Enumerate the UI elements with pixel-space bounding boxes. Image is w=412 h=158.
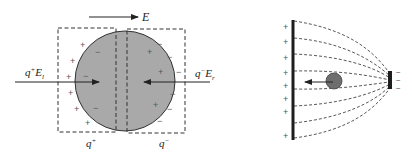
svg-text:+: + [85,118,90,128]
svg-text:+: + [74,104,79,114]
svg-text:q−Er: q−Er [195,67,215,82]
svg-text:+: + [153,100,158,110]
svg-text:+: + [68,88,73,98]
svg-text:−: − [167,104,172,114]
diagram-canvas: E + + + + + + − − − − − − − − − + + [0,0,412,158]
svg-text:+: + [283,81,288,91]
field-arrow: E [89,10,150,24]
svg-text:−: − [157,116,162,126]
svg-text:+: + [80,40,85,50]
svg-text:+: + [283,22,288,32]
dielectric-sphere-figure: E + + + + + + − − − − − − − − − + + [15,10,215,149]
svg-text:+: + [283,37,288,47]
right-electrode-charges: − − − [396,68,401,93]
svg-text:+: + [283,107,288,117]
svg-text:−: − [176,67,181,77]
svg-text:−: − [396,84,401,93]
left-half-label: q+ [86,137,97,149]
svg-text:−: − [167,52,172,62]
svg-text:+: + [283,53,288,63]
svg-text:+: + [283,68,288,78]
svg-text:+: + [70,56,75,66]
dielectrophoresis-figure: + + + + + + + + − − − [283,20,401,141]
right-half-label: q− [159,137,170,149]
svg-text:−: − [170,89,175,99]
svg-text:q+El: q+El [25,66,44,81]
left-electrode-charges: + + + + + + + + [283,22,288,141]
particle [326,73,342,89]
svg-text:−: − [83,71,88,81]
svg-text:+: + [158,67,163,77]
svg-text:+: + [283,94,288,104]
svg-text:−: − [157,39,162,49]
svg-text:−: − [95,47,100,57]
field-label: E [141,10,150,24]
svg-text:−: − [93,103,98,113]
svg-text:+: + [66,72,71,82]
svg-text:+: + [283,131,288,141]
right-electrode [388,71,392,89]
svg-text:+: + [147,47,152,57]
